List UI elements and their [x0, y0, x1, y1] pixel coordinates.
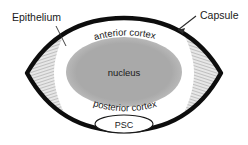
- lens-diagram-svg: anterior cortex posterior cortex nucleus…: [0, 0, 248, 145]
- psc-label: PSC: [115, 120, 134, 130]
- capsule-label: Capsule: [200, 9, 239, 21]
- lens-cross-section-figure: anterior cortex posterior cortex nucleus…: [0, 0, 248, 145]
- epithelium-label: Epithelium: [12, 11, 61, 23]
- nucleus-label: nucleus: [108, 67, 141, 78]
